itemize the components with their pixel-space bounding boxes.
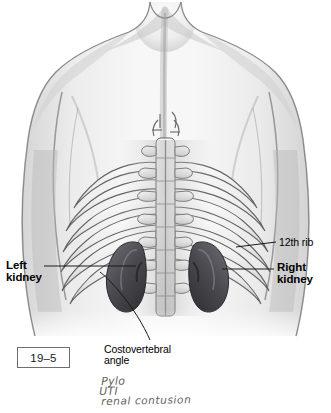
body-figure [0,0,331,350]
figure-number: 19–5 [30,352,56,364]
figure-number-box: 19–5 [17,347,70,368]
figure-19-5: Left kidney Right kidney 12th rib Costov… [0,0,331,413]
label-right-kidney: Right kidney [277,261,313,286]
label-costovertebral-angle: Costovertebral angle [104,344,171,367]
handwritten-note-line-3: renal contusion [101,393,191,407]
label-12th-rib: 12th rib [279,237,313,248]
label-left-kidney: Left kidney [6,259,42,284]
